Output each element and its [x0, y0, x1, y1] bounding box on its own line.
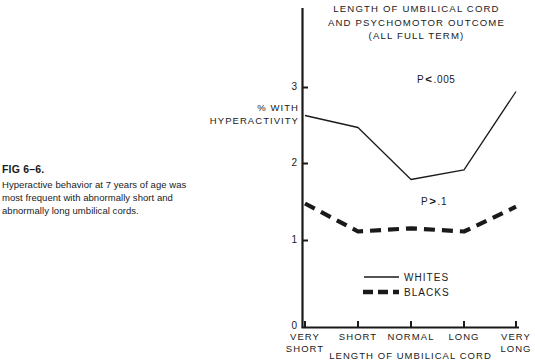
axes — [302, 8, 520, 328]
data-line-whites — [305, 92, 516, 180]
x-axis-ticks — [305, 321, 516, 327]
data-line-blacks — [305, 204, 516, 232]
